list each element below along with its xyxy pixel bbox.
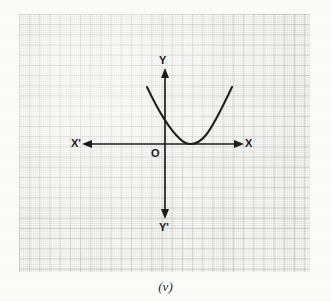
x-axis-negative-label: X' <box>71 138 81 149</box>
plot-canvas <box>0 0 331 301</box>
x-axis-group <box>82 140 244 148</box>
figure-caption: (v) <box>0 279 331 295</box>
parabola-curve-group <box>147 87 232 144</box>
parabola-curve <box>147 87 232 144</box>
x-axis-arrow-left <box>82 140 92 148</box>
y-axis-arrow-down <box>161 209 169 219</box>
y-axis-arrow-up <box>161 68 169 78</box>
y-axis-positive-label: Y <box>159 55 166 66</box>
origin-label: O <box>151 148 160 159</box>
x-axis-arrow-right <box>234 140 244 148</box>
y-axis-negative-label: Y' <box>159 222 169 233</box>
figure-root: X X' Y Y' O (v) <box>0 0 331 301</box>
x-axis-positive-label: X <box>245 138 252 149</box>
